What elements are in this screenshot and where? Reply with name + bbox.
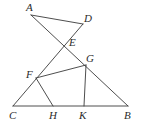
vertex-label-k: K bbox=[79, 110, 86, 121]
vertex-label-d: D bbox=[84, 13, 92, 24]
vertex-label-g: G bbox=[86, 53, 94, 64]
vertex-label-e: E bbox=[69, 37, 76, 48]
geometry-figure: ADEGFCHKB bbox=[0, 0, 141, 130]
vertex-label-f: F bbox=[26, 69, 33, 80]
segment-f-g bbox=[36, 65, 86, 78]
segment-g-k bbox=[84, 65, 86, 106]
vertex-label-c: C bbox=[9, 110, 16, 121]
vertex-label-b: B bbox=[124, 110, 131, 121]
vertex-label-a: A bbox=[26, 2, 33, 13]
geometry-canvas bbox=[0, 0, 141, 130]
vertex-label-h: H bbox=[49, 110, 57, 121]
segment-f-h bbox=[36, 78, 53, 106]
